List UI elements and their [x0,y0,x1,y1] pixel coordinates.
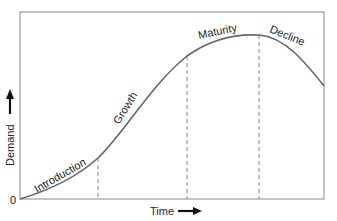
stage-label-decline: Decline [268,23,307,48]
x-axis-arrow-icon [178,207,202,215]
product-life-cycle-diagram: Introduction Growth Maturity Decline 0 T… [0,0,337,221]
x-axis-label: Time [150,205,174,217]
y-axis-arrow-icon [6,89,14,114]
stage-label-growth: Growth [111,90,140,126]
stage-label-maturity: Maturity [197,21,238,41]
stage-label-introduction: Introduction [32,156,88,195]
y-axis-label: Demand [4,124,16,166]
origin-label: 0 [10,194,16,206]
